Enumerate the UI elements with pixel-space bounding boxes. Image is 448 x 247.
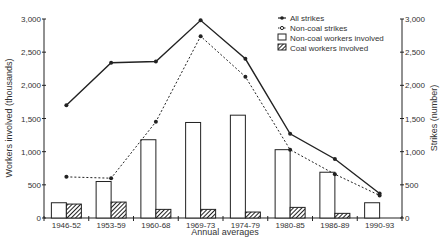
bar-non-coal-workers [230,115,245,218]
data-point [64,175,68,179]
legend-label: All strikes [290,14,324,23]
legend-marker [280,26,283,29]
bar-non-coal-workers [96,182,111,218]
x-tick-label: 1990-93 [365,221,395,230]
legend: All strikesNon-coal strikesNon-coal work… [278,14,384,53]
data-point [64,103,68,107]
data-point [154,59,158,63]
y2-tick-label: 2,000 [405,81,426,90]
bars [51,115,379,218]
bar-non-coal-workers [275,150,290,218]
y2-tick-label: 0 [405,214,410,223]
legend-label: Non-coal strikes [290,24,347,33]
legend-coal-workers-icon [278,44,286,50]
data-point [288,132,292,136]
bar-coal-workers [201,209,216,218]
bar-coal-workers [290,207,305,218]
bar-coal-workers [111,202,126,218]
legend-label: Non-coal workers involved [290,34,384,43]
bar-coal-workers [66,204,81,218]
bar-non-coal-workers [365,203,380,218]
data-point [199,34,203,38]
data-point [288,148,292,152]
data-point [378,193,382,197]
legend-label: Coal workers involved [290,44,368,53]
y2-tick-label: 1,500 [405,115,426,124]
data-point [333,157,337,161]
x-tick-label: 1946-52 [52,221,82,230]
y-tick-label: 0 [37,214,42,223]
x-tick-label: 1986-89 [320,221,350,230]
x-tick-label: 1960-68 [141,221,171,230]
data-point [199,18,203,22]
y2-tick-label: 500 [405,181,419,190]
bar-non-coal-workers [320,172,335,218]
y-tick-label: 1,500 [21,115,42,124]
line-non-coal-strikes [66,36,379,195]
x-tick-label: 1953-59 [96,221,126,230]
strikes-chart: 005005001,0001,0001,5001,5002,0002,0002,… [0,0,448,247]
y-axis-label: Workers involved (thousands) [4,59,14,178]
y-tick-label: 1,000 [21,148,42,157]
data-point [154,120,158,124]
y-tick-label: 500 [28,181,42,190]
x-tick-label: 1980-85 [275,221,305,230]
bar-coal-workers [156,209,171,218]
y-tick-label: 2,500 [21,48,42,57]
legend-marker [280,16,284,20]
y2-tick-label: 1,000 [405,148,426,157]
data-point [243,75,247,79]
data-point [109,176,113,180]
bar-non-coal-workers [51,203,66,218]
y-tick-label: 3,000 [21,15,42,24]
data-point [109,61,113,65]
x-axis-label: Annual averages [191,227,259,237]
bar-non-coal-workers [186,122,201,218]
y2-tick-label: 3,000 [405,15,426,24]
y-tick-label: 2,000 [21,81,42,90]
bar-coal-workers [335,213,350,218]
bar-coal-workers [245,212,260,218]
bar-non-coal-workers [141,140,156,218]
y2-axis-label: Strikes (number) [429,85,439,152]
data-point [333,172,337,176]
data-point [243,57,247,61]
legend-non-coal-workers-icon [278,34,286,40]
y2-tick-label: 2,500 [405,48,426,57]
